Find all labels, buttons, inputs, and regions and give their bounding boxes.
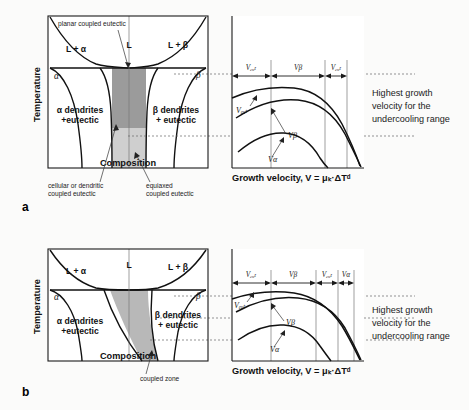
- panel-b-region-liquid: L: [126, 260, 131, 270]
- panel-b-velocity-plot: Vₑᵤₜ Vβ Vₑᵤₜ Vα Vₑᵤₜ Vβ Vα Growth veloci…: [232, 249, 364, 376]
- panel-a-region-beta-dendrites: β dendrites+ eutectic: [153, 105, 200, 125]
- panel-b-curve-label-v-eut: Vₑᵤₜ: [234, 301, 246, 310]
- panel-a-velocity-plot: Vₑᵤₜ Vβ Vₑᵤₜ Vₑᵤₜ Vβ Vα Growth velocity,…: [232, 16, 364, 183]
- panel-b-segment-label-3: Vₑᵤₜ: [322, 270, 334, 279]
- panel-a-beta-marker: β: [195, 70, 201, 80]
- panel-b-segment-label-1: Vₑᵤₜ: [246, 270, 258, 279]
- panel-a-annotation-cellular: cellular or dendriticcoupled eutectic: [48, 182, 104, 198]
- panel-b-velocity-x-label: Growth velocity, V = μₖ·ΔTᵈ: [232, 366, 351, 376]
- velocity-plot-bg: [232, 16, 364, 168]
- panel-b-annotation-coupled-zone: coupled zone: [140, 375, 180, 383]
- panel-a-region-l-beta: L + β: [168, 40, 188, 50]
- panel-b-x-axis-label: Composition: [100, 351, 157, 361]
- panel-a-region-l-alpha: L + α: [66, 44, 87, 54]
- panel-b-region-beta-dendrites: β dendrites+ eutectic: [155, 310, 202, 330]
- panel-a-annotation-planar: planar coupled eutectic: [58, 20, 127, 28]
- figure-container: Temperature Composition L L + α L + β α …: [0, 0, 469, 410]
- figure-svg: Temperature Composition L L + α L + β α …: [0, 0, 469, 410]
- panel-b-region-l-alpha: L + α: [66, 266, 87, 276]
- panel-a-y-axis-label: Temperature: [32, 67, 42, 122]
- panel-b-letter: b: [22, 385, 29, 399]
- panel-a-curve-label-v-alpha: Vα: [268, 155, 278, 164]
- panel-b-curve-label-v-beta: Vβ: [286, 318, 295, 327]
- panel-a-segment-label-3: Vₑᵤₜ: [331, 63, 343, 72]
- panel-b-region-l-beta: L + β: [168, 262, 188, 272]
- panel-a-curve-label-v-eut: Vₑᵤₜ: [236, 106, 248, 115]
- panel-a-curve-label-v-beta: Vβ: [288, 131, 297, 140]
- panel-a-segment-label-2: Vβ: [294, 63, 303, 72]
- panel-b-beta-marker: β: [195, 291, 201, 301]
- panel-b-segment-label-2: Vβ: [289, 270, 298, 279]
- panel-b-y-axis-label: Temperature: [32, 279, 42, 334]
- panel-b-segment-label-4: Vα: [342, 270, 351, 279]
- panel-a-segment-label-1: Vₑᵤₜ: [246, 63, 258, 72]
- panel-a-region-alpha-dendrites: α dendrites+eutectic: [57, 105, 104, 125]
- panel-a-letter: a: [22, 200, 29, 214]
- panel-a-velocity-x-label: Growth velocity, V = μₖ·ΔTᵈ: [232, 173, 351, 183]
- panel-a-region-liquid: L: [126, 40, 131, 50]
- panel-b-curve-label-v-alpha: Vα: [270, 345, 280, 354]
- panel-a-x-axis-label: Composition: [100, 158, 157, 168]
- panel-b-region-alpha-dendrites: α dendrites+eutectic: [57, 316, 104, 336]
